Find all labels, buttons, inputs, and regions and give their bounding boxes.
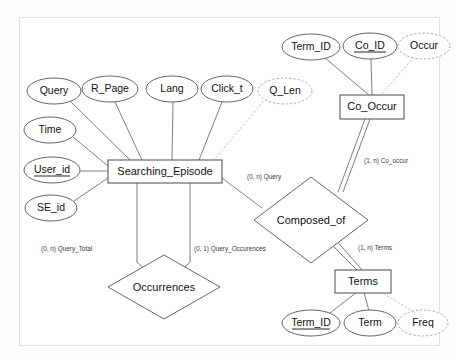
er-diagram: Query R_Page Lang Click_t Q_Len Time — [0, 0, 457, 363]
attribute-occur[interactable]: Occur — [398, 33, 450, 59]
attribute-label: SE_id — [37, 201, 65, 213]
attribute-user-id[interactable]: User_id — [24, 157, 80, 183]
attribute-label: Click_t — [211, 82, 243, 94]
attribute-query[interactable]: Query — [27, 78, 81, 104]
entity-label: Co_Occur — [347, 100, 397, 112]
entity-searching-episode[interactable]: Searching_Episode — [108, 160, 222, 183]
attribute-label: User_id — [34, 163, 70, 175]
attribute-label: Query — [40, 84, 69, 96]
attribute-label: Term — [358, 316, 382, 328]
attribute-co-id[interactable]: Co_ID — [343, 33, 397, 59]
attribute-terms-term-id[interactable]: Term_ID — [282, 310, 340, 336]
entity-label: Searching_Episode — [117, 165, 212, 177]
attribute-co-occur-term-id[interactable]: Term_ID — [282, 34, 340, 60]
cardinality-terms: (1, n) Terms — [358, 244, 392, 252]
cardinality-query-total: (0, n) Query_Total — [41, 245, 92, 253]
attribute-label: Term_ID — [291, 316, 331, 328]
attribute-label: Q_Len — [269, 84, 301, 96]
entity-terms[interactable]: Terms — [335, 270, 391, 293]
cardinality-query: (0, n) Query — [247, 173, 282, 181]
relationship-label: Composed_of — [277, 214, 346, 226]
attribute-se-id[interactable]: SE_id — [25, 195, 77, 221]
cardinality-query-occurrences: (0, 1) Query_Occurences — [194, 245, 266, 253]
attribute-lang[interactable]: Lang — [146, 76, 198, 102]
diagram-frame — [20, 18, 440, 346]
attribute-freq[interactable]: Freq — [398, 310, 448, 336]
attribute-term[interactable]: Term — [344, 310, 396, 336]
attribute-time[interactable]: Time — [24, 117, 76, 143]
attribute-r-page[interactable]: R_Page — [82, 76, 138, 102]
attribute-label: Time — [39, 123, 62, 135]
entity-label: Terms — [348, 275, 378, 287]
relationship-label: Occurrences — [133, 281, 196, 293]
attribute-label: Term_ID — [291, 40, 331, 52]
attribute-label: Lang — [160, 82, 184, 94]
cardinality-co-occur: (1, n) Co_occur — [364, 157, 409, 165]
attribute-click-t[interactable]: Click_t — [201, 76, 253, 102]
attribute-label: Occur — [410, 39, 439, 51]
attribute-label: Freq — [412, 316, 434, 328]
attribute-label: Co_ID — [355, 39, 385, 51]
attribute-q-len[interactable]: Q_Len — [258, 78, 312, 104]
attribute-label: R_Page — [91, 82, 129, 94]
er-diagram-canvas: Query R_Page Lang Click_t Q_Len Time — [0, 0, 457, 363]
entity-co-occur[interactable]: Co_Occur — [340, 95, 404, 119]
